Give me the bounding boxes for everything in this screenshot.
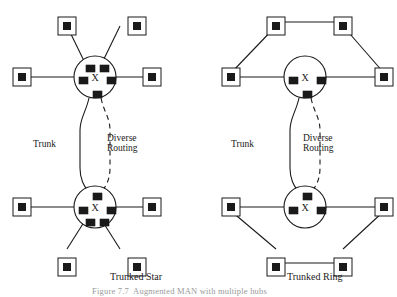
node-ring-top-right-marker xyxy=(380,73,388,81)
node-star-top-upright-marker xyxy=(133,22,141,30)
hub-port-port-right-star-hub-top[interactable] xyxy=(107,77,116,84)
node-star-top-upleft-marker xyxy=(63,22,71,30)
hub-port-port-left-star-hub-bottom[interactable] xyxy=(79,207,88,214)
node-ring-top-left-marker xyxy=(227,73,235,81)
node-ring-bottom-right-marker xyxy=(380,203,388,211)
node-ring-bottom-dnleft-marker xyxy=(272,263,280,271)
trunk-line-trunked-star xyxy=(80,98,89,193)
hub-port-port-left-star-hub-top[interactable] xyxy=(79,77,88,84)
link-ring-bot-left-dn xyxy=(231,211,276,249)
trunk-label-ring: Trunk xyxy=(231,139,254,149)
hub-port-port-right-star-hub-bottom[interactable] xyxy=(107,207,116,214)
node-ring-top-upright-marker xyxy=(339,22,347,30)
trunk-line-trunked-ring xyxy=(290,98,299,193)
hub-port-port-right-ring-hub-top[interactable] xyxy=(317,77,326,84)
topology-diagram-canvas: XXXX xyxy=(0,0,397,297)
hub-label-ring-hub-bottom: X xyxy=(301,202,309,213)
node-star-bottom-left-marker xyxy=(18,203,26,211)
link-ring-bot-dn-right xyxy=(343,211,384,249)
hub-port-port-top-ring-hub-bottom[interactable] xyxy=(303,193,312,200)
figure-caption: Figure 7.7 Augmented MAN with multiple h… xyxy=(92,287,267,296)
diverse-routing-label-ring: Diverse Routing xyxy=(303,133,334,154)
node-star-bottom-right-marker xyxy=(148,203,156,211)
hub-label-star-hub-top: X xyxy=(91,72,99,83)
node-star-top-left-marker xyxy=(18,73,26,81)
hub-port-port-up-right-star-hub-top[interactable] xyxy=(100,65,109,72)
caption-trunked-star: Trunked Star xyxy=(110,272,162,283)
caption-trunked-ring: Trunked Ring xyxy=(287,272,342,283)
node-star-bottom-dnright-marker xyxy=(133,263,141,271)
hub-label-star-hub-bottom: X xyxy=(91,202,99,213)
node-star-top-right-marker xyxy=(148,73,156,81)
hub-port-port-down-left-star-hub-bottom[interactable] xyxy=(86,219,95,226)
hub-port-port-bottom-star-hub-top[interactable] xyxy=(93,91,102,98)
hub-port-port-down-right-star-hub-bottom[interactable] xyxy=(100,219,109,226)
node-ring-bottom-left-marker xyxy=(227,203,235,211)
node-star-bottom-dnleft-marker xyxy=(63,263,71,271)
hub-label-ring-hub-top: X xyxy=(301,72,309,83)
trunk-label-star: Trunk xyxy=(33,139,56,149)
diverse-routing-label-star: Diverse Routing xyxy=(107,133,138,154)
hub-port-port-left-ring-hub-bottom[interactable] xyxy=(289,207,298,214)
hub-port-port-right-ring-hub-bottom[interactable] xyxy=(317,207,326,214)
node-ring-top-upleft-marker xyxy=(272,22,280,30)
figure-root: XXXX Trunk Diverse Routing Trunked Star … xyxy=(0,0,397,297)
hub-port-port-top-star-hub-bottom[interactable] xyxy=(93,193,102,200)
diagram-vector-layer: XXXX xyxy=(13,17,393,276)
hub-port-port-bottom-ring-hub-top[interactable] xyxy=(303,91,312,98)
hub-port-port-up-left-star-hub-top[interactable] xyxy=(86,65,95,72)
node-ring-bottom-dnright-marker xyxy=(339,263,347,271)
hub-port-port-left-ring-hub-top[interactable] xyxy=(289,77,298,84)
